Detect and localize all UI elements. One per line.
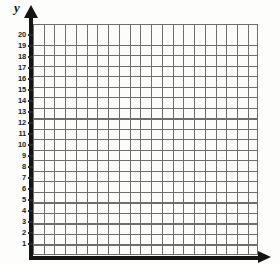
y-tick-13: 13 — [0, 107, 33, 117]
y-tick-label: 19 — [18, 41, 26, 51]
y-tick-2: 2 — [0, 228, 33, 238]
plot-area — [33, 24, 258, 255]
y-tick-10: 10 — [0, 140, 33, 150]
y-tick-label: 5 — [22, 195, 26, 205]
y-tick-mark — [28, 34, 33, 36]
y-tick-mark — [28, 78, 33, 80]
y-tick-12: 12 — [0, 118, 33, 128]
y-tick-label: 18 — [18, 52, 26, 62]
y-tick-mark — [28, 133, 33, 135]
y-tick-mark — [28, 232, 33, 234]
y-tick-label: 4 — [22, 206, 26, 216]
x-axis-line — [29, 256, 260, 260]
y-tick-mark — [28, 188, 33, 190]
y-tick-mark — [28, 177, 33, 179]
y-tick-16: 16 — [0, 74, 33, 84]
y-tick-19: 19 — [0, 41, 33, 51]
y-axis-label: y — [14, 1, 20, 14]
y-tick-14: 14 — [0, 96, 33, 106]
y-tick-3: 3 — [0, 217, 33, 227]
arrow-up-icon — [24, 5, 38, 18]
y-tick-label: 7 — [22, 173, 26, 183]
y-tick-label: 16 — [18, 74, 26, 84]
y-tick-label: 3 — [22, 217, 26, 227]
y-tick-mark — [28, 243, 33, 245]
y-tick-mark — [28, 144, 33, 146]
y-tick-label: 11 — [18, 129, 26, 139]
y-tick-mark — [28, 122, 33, 124]
y-tick-label: 17 — [18, 63, 26, 73]
y-tick-label: 2 — [22, 228, 26, 238]
y-tick-mark — [28, 155, 33, 157]
y-tick-mark — [28, 221, 33, 223]
y-tick-7: 7 — [0, 173, 33, 183]
y-tick-label: 12 — [18, 118, 26, 128]
y-tick-8: 8 — [0, 162, 33, 172]
y-tick-18: 18 — [0, 52, 33, 62]
y-tick-label: 15 — [18, 85, 26, 95]
y-tick-mark — [28, 166, 33, 168]
arrow-right-icon — [258, 251, 271, 263]
y-tick-label: 10 — [18, 140, 26, 150]
graph-paper-screenshot: y 2019181716151413121110987654321 — [0, 0, 280, 264]
y-tick-mark — [28, 210, 33, 212]
y-tick-1: 1 — [0, 239, 33, 249]
y-tick-label: 6 — [22, 184, 26, 194]
y-tick-mark — [28, 45, 33, 47]
y-tick-mark — [28, 111, 33, 113]
y-tick-5: 5 — [0, 195, 33, 205]
y-tick-mark — [28, 100, 33, 102]
y-tick-label: 14 — [18, 96, 26, 106]
y-tick-20: 20 — [0, 30, 33, 40]
y-tick-label: 8 — [22, 162, 26, 172]
y-tick-label: 9 — [22, 151, 26, 161]
y-tick-mark — [28, 199, 33, 201]
y-tick-mark — [28, 56, 33, 58]
y-tick-9: 9 — [0, 151, 33, 161]
y-tick-mark — [28, 89, 33, 91]
y-tick-15: 15 — [0, 85, 33, 95]
y-tick-mark — [28, 67, 33, 69]
y-tick-label: 20 — [18, 30, 26, 40]
y-tick-label: 1 — [22, 239, 26, 249]
grid-surface — [33, 24, 258, 255]
y-tick-11: 11 — [0, 129, 33, 139]
y-tick-label: 13 — [18, 107, 26, 117]
y-tick-17: 17 — [0, 63, 33, 73]
y-tick-4: 4 — [0, 206, 33, 216]
y-tick-6: 6 — [0, 184, 33, 194]
